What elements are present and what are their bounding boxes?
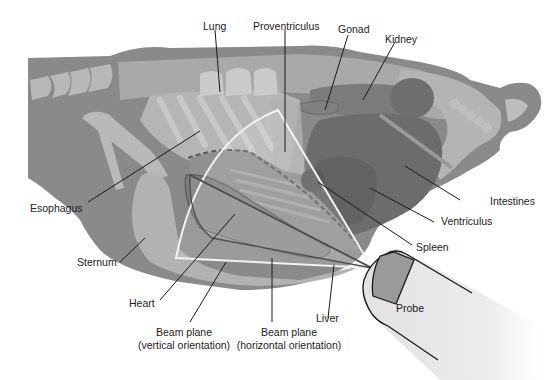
probe bbox=[362, 249, 540, 380]
gonad bbox=[300, 101, 338, 115]
label-proventriculus: Proventriculus bbox=[253, 20, 320, 33]
label-ventriculus: Ventriculus bbox=[441, 215, 492, 228]
lung bbox=[200, 68, 278, 96]
kidney-lobe bbox=[390, 78, 434, 118]
label-gonad: Gonad bbox=[338, 23, 370, 36]
label-sternum: Sternum bbox=[77, 256, 117, 269]
label-heart: Heart bbox=[129, 297, 155, 310]
label-beam-horizontal-line2: (horizontal orientation) bbox=[226, 339, 352, 352]
bird-anatomy-diagram bbox=[0, 0, 560, 380]
label-beam-plane-vertical: Beam plane (vertical orientation) bbox=[126, 326, 242, 352]
label-beam-plane-horizontal: Beam plane (horizontal orientation) bbox=[226, 326, 352, 352]
label-intestines: Intestines bbox=[490, 195, 535, 208]
label-beam-horizontal-line1: Beam plane bbox=[226, 326, 352, 339]
label-kidney: Kidney bbox=[385, 33, 417, 46]
label-beam-vertical-line1: Beam plane bbox=[126, 326, 242, 339]
label-beam-vertical-line2: (vertical orientation) bbox=[126, 339, 242, 352]
label-spleen: Spleen bbox=[416, 241, 449, 254]
label-liver: Liver bbox=[316, 312, 339, 325]
label-probe: Probe bbox=[396, 302, 424, 315]
label-esophagus: Esophagus bbox=[30, 202, 83, 215]
label-lung: Lung bbox=[203, 20, 226, 33]
